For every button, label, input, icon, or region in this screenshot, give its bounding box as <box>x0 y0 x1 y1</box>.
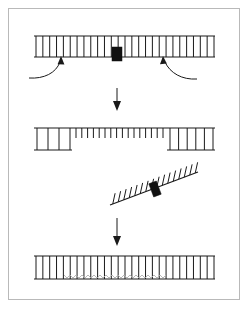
rung <box>168 173 170 184</box>
rung <box>140 183 142 194</box>
rung <box>184 166 186 177</box>
panel-3-lesion-marker-body <box>149 181 161 197</box>
transition-arrow-2 <box>113 218 121 246</box>
panel-1-incision-arrow-left <box>29 56 64 78</box>
panel-2-middle-short-rungs <box>76 128 163 138</box>
figure-root <box>0 0 250 310</box>
rung <box>129 187 131 198</box>
rung <box>135 185 137 196</box>
panel-4-mismatch-wave <box>64 275 166 278</box>
rung <box>195 162 197 173</box>
panel-3-lesion-marker <box>149 181 161 197</box>
panel-1-lesion-marker <box>112 47 122 61</box>
transition-arrow-2-head <box>113 236 121 246</box>
panel-3-excised-fragment <box>110 162 198 205</box>
panel-1-duplex <box>29 36 215 79</box>
rung <box>190 164 192 175</box>
incision-arrow-right-shaft <box>165 62 197 79</box>
rung <box>179 168 181 179</box>
panel-2-gapped-duplex <box>34 128 215 150</box>
transition-arrow-1-head <box>113 101 121 111</box>
panel-1-rungs <box>36 36 214 57</box>
panel-2-right-full-rungs <box>170 128 213 150</box>
rung <box>118 191 120 202</box>
transition-arrow-1 <box>113 88 121 111</box>
diagram-canvas <box>0 0 250 310</box>
panel-1-incision-arrow-right <box>160 56 197 79</box>
panel-4-repaired-duplex <box>34 256 215 279</box>
rung <box>146 181 148 192</box>
rung <box>162 175 164 186</box>
incision-arrow-left-shaft <box>29 62 60 78</box>
rung <box>113 193 115 204</box>
panel-2-left-full-rungs <box>37 128 70 150</box>
rung <box>173 171 175 182</box>
rung <box>124 189 126 200</box>
